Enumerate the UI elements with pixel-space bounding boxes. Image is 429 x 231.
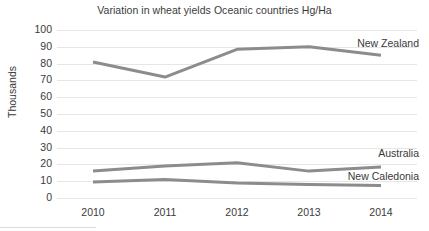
y-tick-label: 0 bbox=[12, 192, 52, 203]
y-tick-label: 50 bbox=[12, 108, 52, 119]
chart-title: Variation in wheat yields Oceanic countr… bbox=[0, 4, 429, 16]
y-tick-label: 60 bbox=[12, 91, 52, 102]
series-line bbox=[93, 163, 381, 171]
gridline bbox=[57, 198, 417, 199]
y-tick-label: 40 bbox=[12, 125, 52, 136]
y-tick-label: 80 bbox=[12, 58, 52, 69]
series-line bbox=[93, 47, 381, 77]
bottom-divider bbox=[0, 227, 96, 228]
x-axis-tick-labels: 20102011201220132014 bbox=[57, 206, 417, 222]
x-tick-label: 2014 bbox=[369, 206, 392, 218]
line-chart: Variation in wheat yields Oceanic countr… bbox=[0, 0, 429, 231]
x-tick-label: 2010 bbox=[81, 206, 104, 218]
y-tick-label: 30 bbox=[12, 142, 52, 153]
y-axis-tick-labels: 1009080706050403020100 bbox=[8, 30, 52, 198]
x-tick-label: 2013 bbox=[297, 206, 320, 218]
series-line bbox=[93, 180, 381, 186]
plot-area bbox=[57, 30, 417, 198]
y-tick-label: 90 bbox=[12, 41, 52, 52]
y-tick-label: 20 bbox=[12, 158, 52, 169]
y-tick-label: 70 bbox=[12, 74, 52, 85]
x-tick-label: 2011 bbox=[154, 206, 177, 218]
y-tick-label: 100 bbox=[12, 24, 52, 35]
series-lines bbox=[57, 30, 417, 198]
x-tick-label: 2012 bbox=[225, 206, 248, 218]
y-tick-label: 10 bbox=[12, 175, 52, 186]
